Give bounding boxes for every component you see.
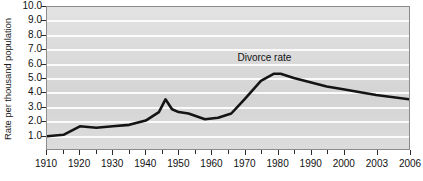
y-axis-tick-mark <box>41 35 46 36</box>
x-axis-tick-label: 1960 <box>200 158 222 169</box>
x-axis-tick-label: 1980 <box>267 158 289 169</box>
y-axis-tick-mark <box>41 49 46 50</box>
x-axis-tick-label: 1970 <box>233 158 255 169</box>
x-axis-tick-label: 2003 <box>366 158 388 169</box>
x-axis-tick-label: 2000 <box>333 158 355 169</box>
x-axis-minor-tick-mark <box>129 150 130 154</box>
x-axis-minor-tick-mark <box>294 150 295 154</box>
x-axis-tick-mark <box>377 150 378 155</box>
x-axis-tick-mark <box>178 150 179 155</box>
y-axis-tick-label: 4.0 <box>14 87 42 97</box>
x-axis-minor-tick-mark <box>261 150 262 154</box>
y-axis-tick-label: 10.0 <box>14 1 42 11</box>
y-axis-tick-label: 5.0 <box>14 73 42 83</box>
y-axis-tick-label: 7.0 <box>14 44 42 54</box>
x-axis-tick-label: 1990 <box>300 158 322 169</box>
y-axis-title: Rate per thousand population <box>1 3 15 155</box>
x-axis-tick-mark <box>145 150 146 155</box>
x-axis-minor-tick-mark <box>195 150 196 154</box>
x-axis-minor-tick-mark <box>228 150 229 154</box>
y-axis-tick-mark <box>41 92 46 93</box>
x-axis-minor-tick-mark <box>327 150 328 154</box>
y-axis-tick-mark <box>41 6 46 7</box>
y-axis-tick-mark <box>41 20 46 21</box>
y-axis-tick-label: 6.0 <box>14 59 42 69</box>
divorce-rate-chart: Rate per thousand population 10.09.08.07… <box>0 0 423 181</box>
x-axis-tick-mark <box>245 150 246 155</box>
x-axis-tick-mark <box>410 150 411 155</box>
y-axis-tick-mark <box>41 78 46 79</box>
x-axis-tick-label: 1950 <box>167 158 189 169</box>
y-axis-tick-label: 9.0 <box>14 15 42 25</box>
x-axis-tick-label: 1940 <box>134 158 156 169</box>
divorce-rate-line <box>47 74 409 136</box>
x-axis-tick-mark <box>344 150 345 155</box>
divorce-rate-annotation: Divorce rate <box>237 52 291 63</box>
x-axis-tick-mark <box>311 150 312 155</box>
y-axis-tick-label: 1.0 <box>14 131 42 141</box>
x-axis-tick-mark <box>211 150 212 155</box>
data-series-svg <box>47 7 409 149</box>
x-axis-minor-tick-mark <box>162 150 163 154</box>
y-axis-tick-mark <box>41 136 46 137</box>
x-axis-minor-tick-mark <box>96 150 97 154</box>
x-axis-tick-label: 1930 <box>101 158 123 169</box>
x-axis-tick-mark <box>112 150 113 155</box>
x-axis-minor-tick-mark <box>63 150 64 154</box>
y-axis-tick-mark <box>41 107 46 108</box>
x-axis-tick-label: 1920 <box>68 158 90 169</box>
x-axis-tick-label: 2006 <box>399 158 421 169</box>
x-axis-tick-mark <box>46 150 47 155</box>
plot-area <box>46 6 410 150</box>
y-axis-tick-mark <box>41 121 46 122</box>
y-axis-tick-label: 8.0 <box>14 30 42 40</box>
x-axis-tick-mark <box>278 150 279 155</box>
y-axis-tick-labels: 10.09.08.07.06.05.04.03.02.01.0 <box>14 0 42 150</box>
y-axis-tick-label: 2.0 <box>14 116 42 126</box>
x-axis-tick-label: 1910 <box>35 158 57 169</box>
x-axis-tick-mark <box>79 150 80 155</box>
y-axis-tick-label: 3.0 <box>14 102 42 112</box>
y-axis-tick-mark <box>41 64 46 65</box>
